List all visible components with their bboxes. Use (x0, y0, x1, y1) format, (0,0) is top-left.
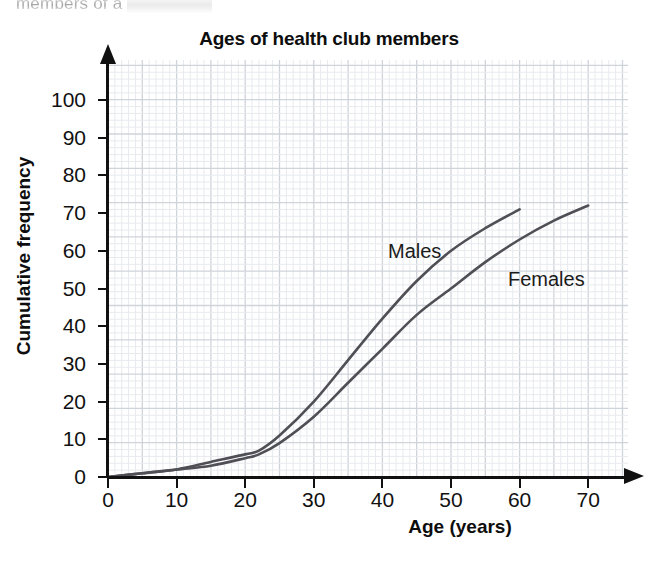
y-tick-20 (98, 401, 108, 403)
y-tick-50 (98, 288, 108, 290)
x-tick-label-50: 50 (426, 489, 476, 510)
y-tick-60 (98, 250, 108, 252)
x-tick-label-40: 40 (357, 489, 407, 510)
y-tick-label-20: 20 (40, 391, 86, 412)
y-tick-100 (98, 99, 108, 101)
y-axis-title: Cumulative frequency (13, 106, 35, 406)
x-tick-50 (450, 478, 452, 488)
y-axis-arrow-icon (100, 44, 116, 64)
x-tick-label-0: 0 (83, 489, 133, 510)
redacted-block: health club (127, 0, 211, 13)
x-tick-10 (176, 478, 178, 488)
y-tick-label-0: 0 (40, 466, 86, 487)
y-tick-label-90: 90 (40, 127, 86, 148)
y-tick-label-40: 40 (40, 315, 86, 336)
series-label-males: Males (388, 240, 441, 263)
y-tick-90 (98, 137, 108, 139)
page-top-text-fragment: members of a health club (16, 0, 316, 14)
y-tick-80 (98, 174, 108, 176)
x-tick-40 (381, 478, 383, 488)
chart-title: Ages of health club members (0, 28, 658, 50)
y-tick-label-70: 70 (40, 202, 86, 223)
x-axis-arrow-icon (624, 468, 644, 484)
x-tick-30 (313, 478, 315, 488)
x-tick-0 (107, 478, 109, 488)
x-tick-label-30: 30 (289, 489, 339, 510)
y-tick-10 (98, 438, 108, 440)
x-tick-label-20: 20 (220, 489, 270, 510)
x-tick-20 (244, 478, 246, 488)
series-label-females: Females (508, 268, 585, 291)
x-tick-60 (519, 478, 521, 488)
y-tick-label-50: 50 (40, 278, 86, 299)
x-tick-label-70: 70 (563, 489, 613, 510)
y-tick-label-60: 60 (40, 240, 86, 261)
x-tick-70 (587, 478, 589, 488)
x-tick-label-60: 60 (495, 489, 545, 510)
y-tick-label-100: 100 (40, 89, 86, 110)
x-tick-label-10: 10 (152, 489, 202, 510)
y-tick-label-10: 10 (40, 428, 86, 449)
y-tick-30 (98, 363, 108, 365)
x-axis-title: Age (years) (320, 516, 600, 538)
y-axis-line (106, 62, 109, 478)
x-axis-line (107, 476, 632, 479)
y-tick-70 (98, 212, 108, 214)
y-tick-label-30: 30 (40, 353, 86, 374)
y-tick-label-80: 80 (40, 164, 86, 185)
y-tick-40 (98, 325, 108, 327)
